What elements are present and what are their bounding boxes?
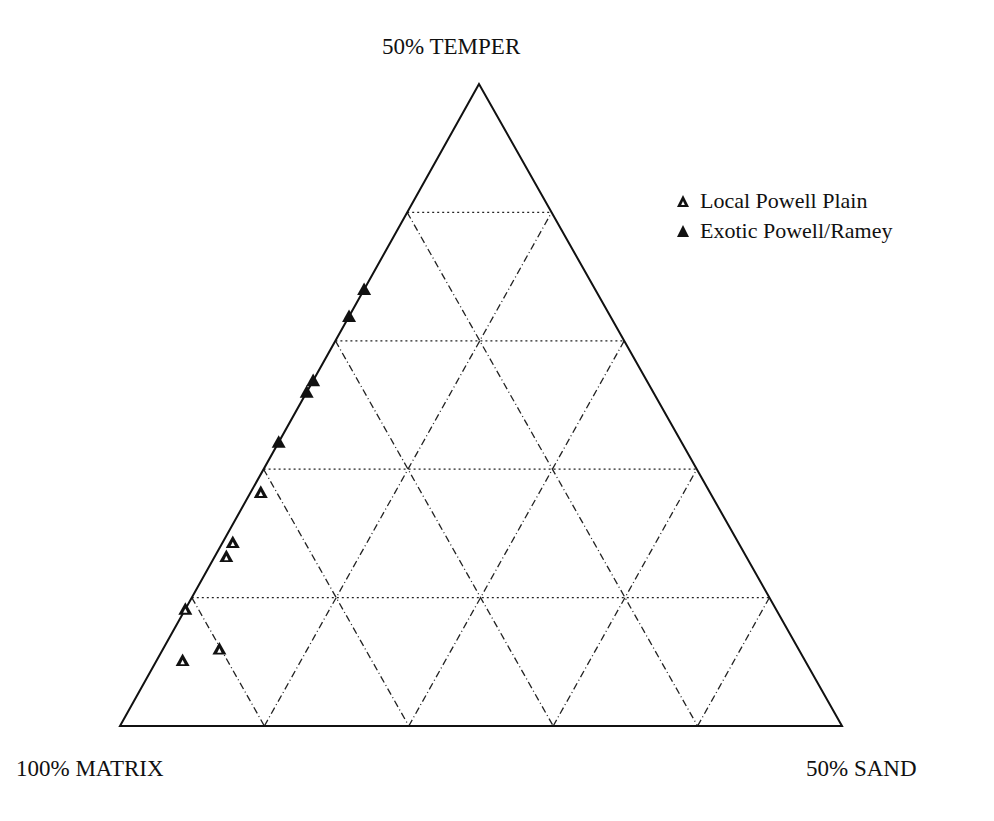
exotic-powell-ramey-point: [306, 374, 320, 387]
local-powell-plain-point: [212, 642, 226, 655]
grid-line-matrix: [192, 598, 265, 726]
triangle-frame: [120, 84, 842, 726]
local-powell-plain-point: [219, 550, 233, 563]
legend-label: Local Powell Plain: [700, 186, 867, 216]
open-triangle-icon: [676, 194, 690, 208]
vertex-label-sand: 50% SAND: [806, 756, 917, 782]
ternary-plot: [0, 0, 994, 821]
legend-label: Exotic Powell/Ramey: [700, 216, 892, 246]
local-powell-plain-point: [254, 485, 268, 498]
local-powell-plain-point: [176, 654, 190, 667]
local-powell-plain-point: [178, 602, 192, 615]
legend-item-local: Local Powell Plain: [676, 186, 892, 216]
local-powell-plain-point: [226, 535, 240, 548]
legend-item-exotic: Exotic Powell/Ramey: [676, 216, 892, 246]
exotic-powell-ramey-point: [342, 309, 356, 322]
legend: Local Powell Plain Exotic Powell/Ramey: [676, 186, 892, 246]
grid-line-matrix: [335, 341, 553, 726]
vertex-label-matrix: 100% MATRIX: [16, 756, 164, 782]
exotic-powell-ramey-point: [300, 385, 314, 398]
grid-lines: [192, 212, 770, 726]
grid-line-sand: [409, 341, 624, 726]
vertex-label-temper: 50% TEMPER: [382, 34, 520, 60]
filled-triangle-icon: [676, 224, 690, 238]
exotic-powell-ramey-point: [357, 282, 371, 295]
grid-line-sand: [698, 598, 770, 726]
exotic-powell-ramey-point: [272, 435, 286, 448]
